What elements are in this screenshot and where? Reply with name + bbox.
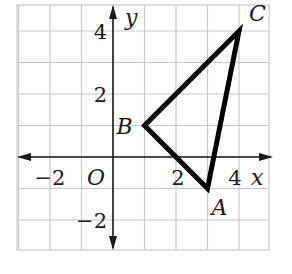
origin-label: O: [87, 165, 105, 190]
y-tick-label: 2: [94, 83, 107, 107]
y-axis-label: y: [124, 5, 138, 30]
vertex-label-b: B: [116, 114, 133, 139]
x-tick-label: 2: [171, 166, 184, 190]
coordinate-plane: x y O −2 2 4 4 2 −2 A B C: [0, 0, 292, 274]
triangle-abc: [145, 31, 240, 189]
x-tick-label: 4: [228, 166, 241, 190]
vertex-label-a: A: [210, 195, 228, 220]
x-axis-label: x: [251, 165, 264, 190]
y-tick-label: −2: [76, 209, 107, 233]
y-axis-arrow-up-icon: [109, 5, 117, 19]
coordinate-plane-figure: x y O −2 2 4 4 2 −2 A B C: [0, 0, 292, 274]
y-axis-arrow-down-icon: [109, 236, 117, 250]
vertex-label-c: C: [249, 1, 266, 26]
x-tick-label: −2: [35, 166, 66, 190]
y-tick-label: 4: [94, 20, 107, 44]
x-axis-arrow-right-icon: [259, 153, 273, 161]
